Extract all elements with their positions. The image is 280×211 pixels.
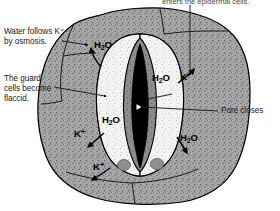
h2o-h: H (102, 114, 109, 125)
molecule-h2o-upper-left: H2O (94, 39, 112, 50)
h2o-2: 2 (159, 77, 163, 84)
molecule-h2o-lower-left: H2O (102, 114, 120, 125)
molecule-h2o-upper-right: H2O (152, 72, 170, 83)
h2o-o: O (162, 72, 169, 83)
k-plus: + (100, 160, 104, 169)
molecule-k-upper-right: K+ (180, 71, 191, 82)
h2o-2: 2 (101, 44, 105, 51)
h2o-o: O (112, 114, 119, 125)
molecule-k-bottom-left: K+ (93, 161, 104, 172)
h2o-2: 2 (187, 137, 191, 144)
h2o-h: H (94, 39, 101, 50)
h2o-o: O (104, 39, 111, 50)
nucleus-left (118, 160, 131, 171)
k-k: K (74, 128, 81, 139)
callout-water-follows: Water follows K⁺ by osmosis. (4, 27, 64, 47)
stoma-diagram: enters the epidermal cells. Water follow… (0, 0, 280, 211)
k-k: K (93, 161, 100, 172)
h2o-h: H (180, 132, 187, 143)
callout-k-enters-epidermal: enters the epidermal cells. (162, 0, 249, 6)
molecule-h2o-lower-right: H2O (180, 132, 198, 143)
callout-guard-cells-flaccid: The guard cells become flaccid. (4, 74, 51, 105)
h2o-h: H (152, 72, 159, 83)
h2o-o: O (190, 132, 197, 143)
molecule-k-mid-left: K+ (74, 128, 85, 139)
nucleus-right (150, 158, 164, 169)
k-plus: + (187, 70, 191, 79)
k-plus: + (81, 127, 85, 136)
k-k: K (180, 71, 187, 82)
callout-pore-closes: Pore closes (221, 106, 263, 116)
h2o-2: 2 (109, 119, 113, 126)
